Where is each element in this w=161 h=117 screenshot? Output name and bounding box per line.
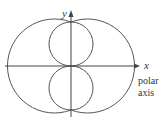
polar-diagram: y x polar axis xyxy=(0,0,161,117)
y-axis-label: y xyxy=(61,7,67,19)
y-axis-arrow-icon xyxy=(69,10,74,17)
x-axis-label: x xyxy=(143,59,149,71)
x-axis-arrow-icon xyxy=(134,64,140,69)
polar-axis-label-line2: axis xyxy=(138,87,154,98)
polar-axis-label-line1: polar xyxy=(138,75,159,86)
